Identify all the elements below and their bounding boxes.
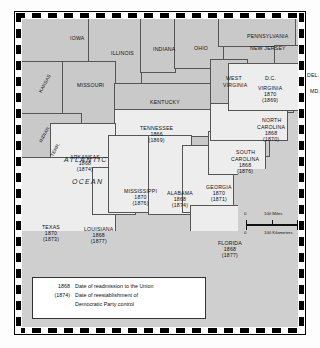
- legend-description: Date of readmission to the Union: [75, 283, 154, 291]
- state-label-new-jersey: NEW JERSEY: [250, 46, 286, 52]
- frame-right-rule: [305, 11, 306, 335]
- state-label-south-carolina: SOUTH: [236, 150, 255, 156]
- scale-bar-midtick: [272, 220, 273, 224]
- state-democratic-control-year: (1874): [167, 203, 193, 209]
- state-democratic-control-year: (1869): [258, 98, 282, 104]
- state-name: KENTUCKY: [150, 100, 180, 106]
- state-label-virginia: VIRGINIA1870(1869): [258, 86, 282, 103]
- state-name: OHIO: [194, 46, 208, 52]
- state-label-mississippi: MISSISSIPPI1870(1876): [124, 189, 157, 206]
- state-democratic-control-year: (1871): [206, 197, 232, 203]
- state-label-tennessee: TENNESSEE1866(1869): [140, 126, 173, 143]
- legend-description: Date of reestablishment of: [75, 292, 138, 300]
- state-name: MISSOURI: [77, 83, 104, 89]
- legend-row: (1874)Date of reestablishment of: [36, 292, 201, 300]
- legend-key: 1868: [36, 283, 75, 289]
- state-label-indiana: INDIANA: [153, 47, 175, 53]
- state-label-west-virginia: WEST: [226, 76, 242, 82]
- state-label-south-carolina2: CAROLINA1868(1876): [231, 157, 259, 174]
- state-name: NORTH: [262, 118, 281, 124]
- state-democratic-control-year: (1869): [140, 138, 173, 144]
- state-label-louisiana: LOUISIANA1868(1877): [84, 227, 113, 244]
- state-label-texas: TEXAS1870(1873): [42, 225, 60, 242]
- scale-bar: 0 100 Miles 0 100 Kilometers: [242, 211, 306, 239]
- state-name: MD.: [310, 89, 320, 95]
- state-label-dc: D.C.: [265, 76, 276, 82]
- state-democratic-control-year: (1870): [257, 137, 285, 143]
- legend-row: Democratic Party control: [36, 301, 201, 309]
- state-name: IOWA: [70, 36, 84, 42]
- frame-dash-top: [16, 13, 304, 18]
- legend-rows: 1868Date of readmission to the Union(187…: [33, 278, 205, 308]
- state-border-kentucky: [114, 83, 212, 111]
- scale-km-zero: 0: [244, 230, 246, 235]
- state-democratic-control-year: (1874): [70, 167, 100, 173]
- state-label-iowa: IOWA: [70, 36, 84, 42]
- frame-dash-bottom: [16, 328, 304, 333]
- state-label-illinois: ILLINOIS: [111, 51, 134, 57]
- frame-bottom-rule: [14, 334, 306, 335]
- scale-km-label: 100 Kilometers: [264, 230, 293, 235]
- state-label-west-virginia2: VIRGINIA: [223, 83, 247, 89]
- state-label-north-carolina: NORTH: [262, 118, 281, 124]
- frame-dash-left: [16, 13, 21, 333]
- state-label-arkansas: ARKANSAS1868(1874): [70, 155, 100, 172]
- legend-description: Democratic Party control: [75, 301, 134, 309]
- state-label-maryland: MD.: [310, 89, 320, 95]
- state-democratic-control-year: (1873): [42, 237, 60, 243]
- state-name: PENNSYLVANIA: [247, 34, 288, 40]
- state-name: WEST: [226, 76, 242, 82]
- frame-top-rule: [14, 11, 306, 12]
- state-name: ILLINOIS: [111, 51, 134, 57]
- state-label-alabama: ALABAMA1868(1874): [167, 191, 193, 208]
- state-name: D.C.: [265, 76, 276, 82]
- scale-miles-label: 100 Miles: [264, 211, 282, 216]
- legend-row: 1868Date of readmission to the Union: [36, 283, 201, 291]
- state-label-ohio: OHIO: [194, 46, 208, 52]
- scale-miles-zero: 0: [244, 211, 246, 216]
- state-name: SOUTH: [236, 150, 255, 156]
- state-name: INDIANA: [153, 47, 175, 53]
- reconstruction-map-figure: ATLANTIC OCEAN IOWAILLINOISINDIANAOHIOPE…: [0, 0, 320, 348]
- state-name: VIRGINIA: [223, 83, 247, 89]
- state-democratic-control-year: (1876): [124, 201, 157, 207]
- state-label-kentucky: KENTUCKY: [150, 100, 180, 106]
- map-legend: 1868Date of readmission to the Union(187…: [32, 277, 206, 319]
- state-name: NEW JERSEY: [250, 46, 286, 52]
- frame-dash-right: [299, 13, 304, 333]
- state-label-missouri: MISSOURI: [77, 83, 104, 89]
- state-label-north-carolina2: CAROLINA1868(1870): [257, 125, 285, 142]
- frame-left-rule: [14, 11, 15, 335]
- state-label-pennsylvania: PENNSYLVANIA: [247, 34, 288, 40]
- ocean-label-ocean: OCEAN: [72, 178, 103, 185]
- state-label-florida: FLORIDA1868(1877): [218, 241, 242, 258]
- state-democratic-control-year: (1876): [231, 169, 259, 175]
- state-democratic-control-year: (1877): [218, 253, 242, 259]
- state-name: DEL.: [307, 73, 319, 79]
- scale-bar-miles-text: 0 100 Miles: [242, 211, 306, 220]
- legend-key: (1874): [36, 292, 75, 298]
- state-democratic-control-year: (1877): [84, 239, 113, 245]
- scale-bar-km-text: 0 100 Kilometers: [242, 230, 306, 239]
- state-label-georgia: GEORGIA1870(1871): [206, 185, 232, 202]
- state-label-delaware: DEL.: [307, 73, 319, 79]
